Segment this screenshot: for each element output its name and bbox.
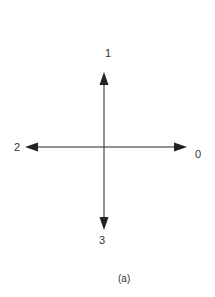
figure-caption: (a) <box>118 273 130 284</box>
label-direction-1: 1 <box>105 47 111 59</box>
arrow-up-icon <box>100 72 109 85</box>
arrow-right-icon <box>174 143 187 152</box>
direction-diagram: 0 1 2 3 (a) <box>0 0 215 297</box>
label-direction-0: 0 <box>195 148 201 160</box>
label-direction-2: 2 <box>14 141 20 153</box>
arrow-left-icon <box>25 143 38 152</box>
label-direction-3: 3 <box>99 234 105 246</box>
vertical-axis <box>100 72 109 230</box>
horizontal-axis <box>25 143 187 152</box>
arrow-down-icon <box>100 217 109 230</box>
